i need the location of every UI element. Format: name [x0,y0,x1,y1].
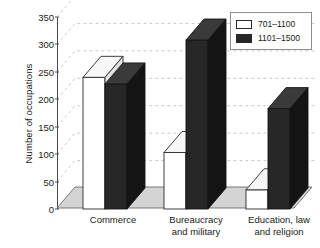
legend-label-0: 701–1100 [258,19,295,29]
legend[interactable]: 701–1100 1101–1500 [230,12,312,50]
legend-item-0[interactable]: 701–1100 [236,17,306,31]
legend-label-1: 1101–1500 [258,33,300,43]
bar-chart: Number of occupations 050100150200250300… [0,0,320,248]
legend-item-1[interactable]: 1101–1500 [236,31,306,45]
legend-swatch-open-icon [236,20,252,29]
legend-swatch-filled-icon [236,34,252,43]
x-category-label-2: Education, law and religion [229,214,320,237]
